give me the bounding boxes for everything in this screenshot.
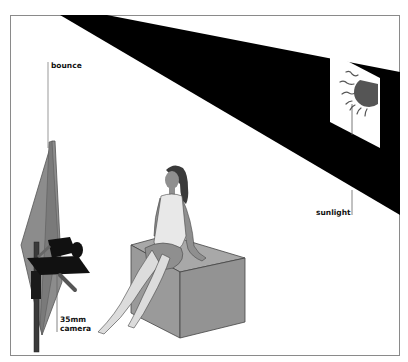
lighting-diagram: bounce sunlight 35mm camera (0, 0, 408, 362)
sunlight-label: sunlight (316, 208, 351, 217)
camera-label-line2: camera (60, 324, 91, 333)
camera-label: 35mm camera (60, 315, 91, 333)
bounce-label: bounce (51, 61, 82, 70)
camera-label-line1: 35mm (60, 315, 91, 324)
